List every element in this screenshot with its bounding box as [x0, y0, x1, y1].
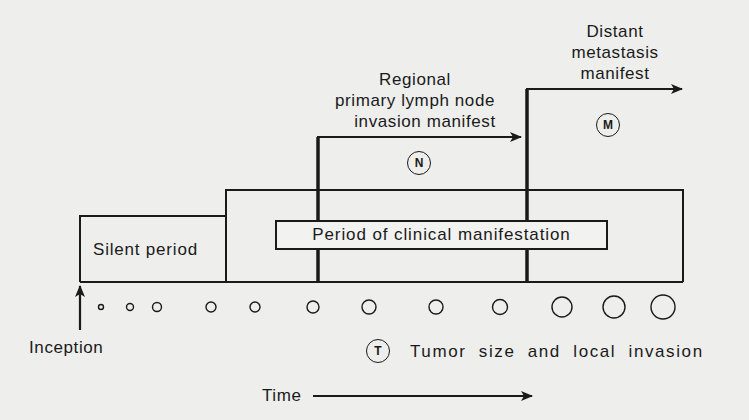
inception-label: Inception	[29, 338, 103, 357]
tumor-marker-t-icon: T	[366, 339, 390, 363]
node-marker-n-icon: N	[407, 151, 431, 175]
distant-label-line1: Distant	[540, 22, 690, 41]
tumor-progression-diagram: Silent period Period of clinical manifes…	[0, 0, 749, 420]
tumor-size-circle	[362, 300, 376, 314]
tumor-size-circle	[429, 300, 443, 314]
tumor-size-circle	[651, 295, 675, 319]
tumor-size-circle	[603, 296, 625, 318]
tumor-size-circle	[493, 300, 508, 315]
distant-label-line2: metastasis	[540, 43, 690, 62]
tumor-size-circle	[250, 302, 260, 312]
time-label: Time	[262, 386, 302, 405]
tumor-size-circles	[99, 295, 676, 319]
silent-period-label: Silent period	[93, 240, 198, 260]
clinical-period-box: Period of clinical manifestation	[275, 220, 608, 250]
tumor-size-circle	[307, 301, 319, 313]
tumor-legend-label: Tumor size and local invasion	[410, 342, 704, 361]
clinical-period-label: Period of clinical manifestation	[312, 225, 570, 245]
tumor-size-circle	[127, 304, 134, 311]
tumor-size-circle	[206, 302, 216, 312]
tumor-size-circle	[99, 305, 104, 310]
tumor-size-circle	[153, 303, 162, 312]
distant-label-line3: manifest	[540, 64, 690, 83]
regional-label-line1: Regional	[300, 70, 530, 89]
metastasis-marker-m-icon: M	[596, 113, 620, 137]
regional-label-line3: invasion manifest	[310, 112, 540, 131]
regional-label-line2: primary lymph node	[300, 91, 530, 110]
tumor-size-circle	[552, 297, 572, 317]
